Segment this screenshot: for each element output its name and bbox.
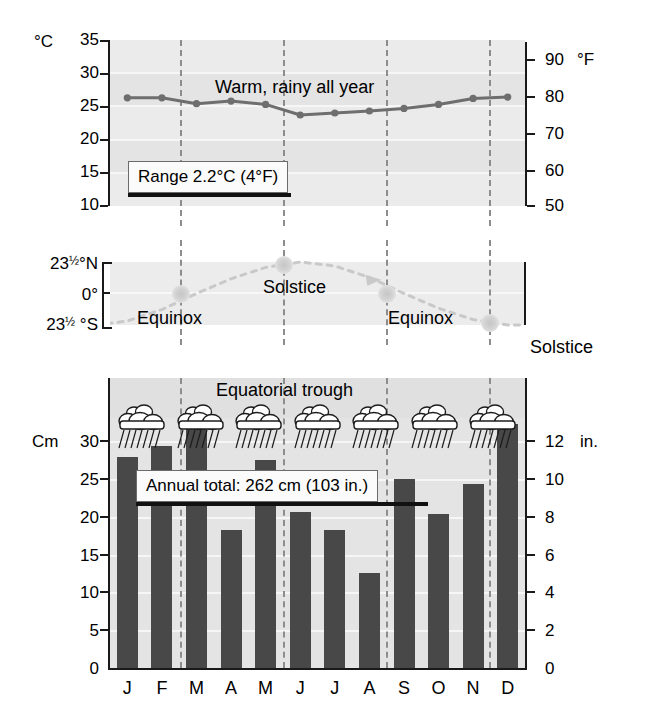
temp-ytick-right-60: 60: [545, 162, 564, 179]
declination-label-solstice-june: Solstice: [263, 278, 326, 296]
temp-tick-right: [527, 59, 535, 61]
month-label: S: [389, 679, 419, 697]
precip-callout-rule: [136, 502, 428, 506]
declination-south-value: 23: [46, 315, 65, 334]
temp-tick: [100, 139, 108, 141]
precipitation-bar: [463, 484, 484, 669]
precip-unit-inches: in.: [580, 433, 598, 450]
precip-baseline-axis: [108, 668, 527, 670]
precip-tick-right: [527, 440, 535, 442]
temp-ytick-10: 10: [59, 196, 99, 213]
precip-ytick-20: 20: [64, 509, 99, 526]
precip-tick-right: [527, 554, 535, 556]
declination-label-equinox-march: Equinox: [137, 309, 202, 327]
precipitation-bar: [221, 530, 242, 668]
declination-label-zero: 0°: [20, 286, 98, 303]
precip-unit-cm: Cm: [32, 433, 58, 450]
temp-tick: [100, 40, 108, 42]
declination-south-unit: °S: [80, 315, 98, 334]
sun-marker-solstice-december: [481, 314, 499, 332]
precip-tick-right: [527, 516, 535, 518]
declination-north-fraction: ½: [69, 255, 79, 267]
temp-ytick-15: 15: [59, 163, 99, 180]
declination-label-north: 23½°N: [20, 255, 98, 272]
precip-annotation: Equatorial trough: [216, 381, 353, 399]
precip-ytick-right-10: 10: [545, 471, 564, 488]
precip-ytick-right-2: 2: [545, 622, 554, 639]
precip-ytick-right-6: 6: [545, 547, 554, 564]
temp-right-axis: [525, 42, 527, 206]
temp-callout-rule: [128, 193, 291, 197]
temperature-data-point: [400, 105, 407, 112]
precip-right-axis: [525, 378, 527, 670]
precipitation-bar: [324, 530, 345, 668]
temperature-data-point: [470, 95, 477, 102]
precip-ytick-right-8: 8: [545, 509, 554, 526]
temp-tick: [100, 73, 108, 75]
temp-range-callout: Range 2.2°C (4°F): [128, 161, 288, 193]
temperature-data-point: [158, 94, 165, 101]
month-label: D: [493, 679, 523, 697]
precipitation-bar: [497, 424, 518, 668]
rain-cloud-icon: [175, 404, 229, 450]
precip-total-callout: Annual total: 262 cm (103 in.): [136, 470, 378, 502]
rain-cloud-icon: [292, 404, 346, 450]
month-label: O: [424, 679, 454, 697]
precip-tick: [100, 591, 108, 593]
precip-tick-right: [527, 478, 535, 480]
temp-tick: [100, 172, 108, 174]
precip-ytick-0: 0: [64, 660, 99, 677]
precipitation-bar: [359, 573, 380, 668]
month-label: J: [112, 679, 142, 697]
rain-cloud-icon: [409, 404, 463, 450]
temperature-data-point: [366, 107, 373, 114]
temp-ytick-20: 20: [59, 130, 99, 147]
precip-tick: [100, 440, 108, 442]
precip-ytick-30: 30: [64, 433, 99, 450]
sun-marker-equinox-september: [378, 285, 396, 303]
declination-north-value: 23: [50, 254, 69, 273]
temperature-data-point: [193, 100, 200, 107]
precip-ytick-right-12: 12: [545, 433, 564, 450]
precipitation-bar: [117, 457, 138, 668]
temp-tick-right: [527, 170, 535, 172]
month-label: N: [458, 679, 488, 697]
month-label: A: [216, 679, 246, 697]
precip-tick-right: [527, 591, 535, 593]
declination-label-equinox-september: Equinox: [388, 309, 453, 327]
temp-tick-right: [527, 205, 535, 207]
temp-tick: [100, 205, 108, 207]
sun-marker-solstice-june: [275, 256, 293, 274]
temp-tick-right: [527, 133, 535, 135]
temp-ytick-35: 35: [59, 31, 99, 48]
precip-ytick-15: 15: [64, 547, 99, 564]
temp-unit-celsius: °C: [34, 33, 53, 50]
rain-cloud-icon: [350, 404, 404, 450]
month-label: M: [251, 679, 281, 697]
temp-ytick-right-70: 70: [545, 125, 564, 142]
month-label: J: [285, 679, 315, 697]
temperature-data-point: [227, 98, 234, 105]
temp-ytick-right-90: 90: [545, 51, 564, 68]
rain-cloud-icon: [116, 404, 170, 450]
temp-annotation: Warm, rainy all year: [215, 78, 374, 96]
temp-tick-right: [527, 96, 535, 98]
precip-tick: [100, 478, 108, 480]
month-label: J: [320, 679, 350, 697]
rain-cloud-icon: [467, 404, 521, 450]
temp-tick: [100, 106, 108, 108]
declination-label-solstice-december: Solstice: [530, 338, 593, 356]
rain-cloud-icon: [233, 404, 287, 450]
precipitation-bar: [290, 512, 311, 668]
temperature-data-point: [124, 94, 131, 101]
precip-ytick-10: 10: [64, 584, 99, 601]
climate-graph: °C 35 30 25 20 15 10 90 °F 80 70 60 50 W…: [0, 0, 657, 727]
temp-ytick-right-80: 80: [545, 88, 564, 105]
precip-tick: [100, 629, 108, 631]
precip-ytick-right-0: 0: [545, 660, 554, 677]
precip-tick: [100, 516, 108, 518]
declination-label-south: 23½ °S: [16, 316, 98, 333]
precip-tick-right: [527, 629, 535, 631]
precipitation-bar: [394, 479, 415, 668]
precipitation-bar: [428, 514, 449, 668]
